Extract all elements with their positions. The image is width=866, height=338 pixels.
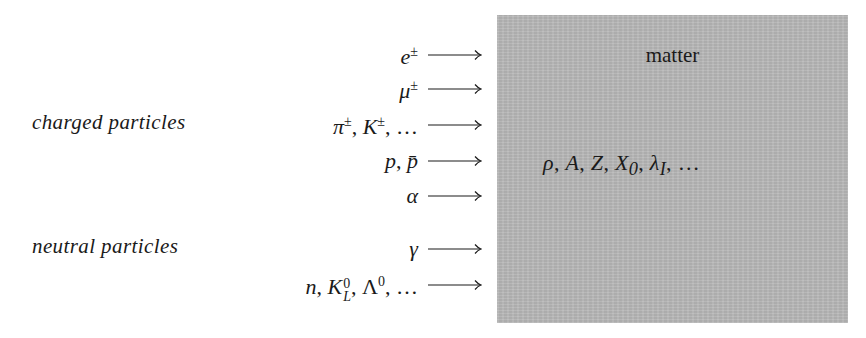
matter-block: matter ρ, A, Z, X0, λI, …	[497, 15, 848, 323]
particle-row-alpha: α	[406, 181, 482, 211]
long-right-arrow-icon	[428, 189, 482, 203]
group-label-charged: charged particles	[32, 110, 186, 135]
particle-label-photon: γ	[409, 234, 418, 264]
long-right-arrow-icon	[428, 242, 482, 256]
particle-row-muon: μ±	[399, 74, 482, 104]
particle-label-pion-kaon: π±, K±, …	[333, 107, 418, 142]
long-right-arrow-icon	[428, 48, 482, 62]
particle-row-electron: e±	[401, 40, 482, 70]
particle-row-photon: γ	[409, 234, 482, 264]
particle-row-pion-kaon: π±, K±, …	[333, 110, 482, 140]
particle-row-proton: p, p̄	[385, 146, 482, 176]
particle-label-electron: e±	[401, 37, 418, 72]
long-right-arrow-icon	[428, 82, 482, 96]
long-right-arrow-icon	[428, 154, 482, 168]
matter-title: matter	[497, 43, 848, 68]
long-right-arrow-icon	[428, 118, 482, 132]
particle-label-muon: μ±	[399, 71, 418, 106]
long-right-arrow-icon	[428, 278, 482, 292]
group-label-neutral: neutral particles	[32, 234, 178, 259]
particle-label-alpha: α	[406, 181, 418, 211]
particle-row-neutral-hadrons: n, K0L, Λ0, …	[306, 270, 482, 300]
particle-label-neutral-hadrons: n, K0L, Λ0, …	[306, 267, 418, 302]
particle-label-proton: p, p̄	[385, 146, 418, 176]
matter-properties: ρ, A, Z, X0, λI, …	[543, 150, 700, 180]
